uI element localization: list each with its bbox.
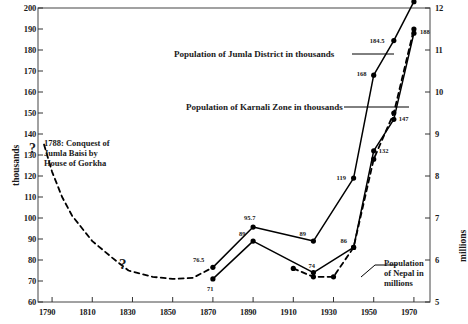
conquest-note-line-2: Jumla Baisi by bbox=[44, 148, 110, 158]
data-point bbox=[311, 274, 316, 279]
x-tick-label: 1910 bbox=[280, 307, 296, 317]
y-axis-right-title: millions bbox=[458, 230, 468, 262]
y-tick-label: 160 bbox=[20, 87, 36, 97]
nepal-callout-line-2: of Nepal in bbox=[384, 268, 424, 278]
y-tick-label: 100 bbox=[20, 213, 36, 223]
y-tick-right-label: 6 bbox=[435, 255, 439, 265]
callout-leader-nepal-elbow bbox=[361, 265, 375, 277]
data-point-label: 89 bbox=[239, 230, 246, 237]
x-tick-label: 1850 bbox=[160, 307, 176, 317]
nepal-callout-line-1: Population bbox=[384, 258, 424, 268]
data-point bbox=[391, 38, 396, 43]
y-tick-right-label: 5 bbox=[435, 297, 439, 307]
karnali-zone-callout-label: Population of Karnali Zone in thousands bbox=[186, 102, 343, 113]
uncertainty-question-mark-icon: ? bbox=[119, 256, 127, 273]
x-tick-label: 1890 bbox=[240, 307, 256, 317]
data-point bbox=[250, 239, 255, 244]
y-tick-label: 200 bbox=[20, 3, 36, 13]
data-point-label: 119 bbox=[337, 174, 346, 181]
x-tick-label: 1790 bbox=[39, 307, 55, 317]
data-point bbox=[371, 148, 376, 153]
data-point bbox=[411, 26, 416, 31]
conquest-note-line-3: House of Gorkha bbox=[44, 158, 110, 168]
data-point-label: 168 bbox=[357, 70, 367, 77]
x-tick-label: 1830 bbox=[119, 307, 135, 317]
y-tick-label: 70 bbox=[20, 276, 36, 286]
data-point bbox=[351, 245, 356, 250]
data-point bbox=[250, 224, 255, 229]
y-tick-label: 130 bbox=[20, 150, 36, 160]
y-tick-label: 60 bbox=[20, 297, 36, 307]
data-point-label: 74 bbox=[308, 262, 315, 269]
conquest-note-line-1: 1788: Conquest of bbox=[44, 138, 110, 148]
x-tick-label: 1930 bbox=[321, 307, 337, 317]
data-point-label: 184.5 bbox=[370, 37, 385, 44]
nepal-callout-label: Population of Nepal in millions bbox=[384, 258, 424, 288]
y-tick-label: 90 bbox=[20, 234, 36, 244]
data-point-label: 71 bbox=[207, 285, 214, 292]
x-tick-label: 1870 bbox=[200, 307, 216, 317]
data-point bbox=[291, 266, 296, 271]
y-tick-right-label: 7 bbox=[435, 213, 439, 223]
data-point bbox=[311, 239, 316, 244]
y-tick-label: 190 bbox=[20, 24, 36, 34]
conquest-note: 1788: Conquest of Jumla Baisi by House o… bbox=[44, 138, 110, 168]
data-point bbox=[391, 110, 396, 115]
data-point-label: 188 bbox=[420, 28, 430, 35]
y-tick-label: 110 bbox=[20, 192, 36, 202]
jumla-district-callout-label: Population of Jumla District in thousand… bbox=[174, 49, 334, 60]
data-point bbox=[210, 276, 215, 281]
y-tick-label: 80 bbox=[20, 255, 36, 265]
data-point-label: 89 bbox=[299, 230, 306, 237]
data-point-label: 132 bbox=[379, 147, 389, 154]
x-tick-label: 1950 bbox=[361, 307, 377, 317]
x-tick-label: 1970 bbox=[401, 307, 417, 317]
data-point-label: 147 bbox=[399, 115, 409, 122]
data-point-label: 86 bbox=[341, 237, 348, 244]
data-point bbox=[331, 274, 336, 279]
y-tick-right-label: 10 bbox=[435, 87, 443, 97]
y-tick-label: 150 bbox=[20, 108, 36, 118]
data-point bbox=[371, 73, 376, 78]
y-tick-right-label: 12 bbox=[435, 3, 443, 13]
data-point bbox=[351, 176, 356, 181]
y-tick-right-label: 11 bbox=[435, 45, 443, 55]
y-tick-label: 120 bbox=[20, 171, 36, 181]
data-point-label: 95.7 bbox=[244, 214, 255, 221]
y-tick-label: 180 bbox=[20, 45, 36, 55]
nepal-callout-line-3: millions bbox=[384, 278, 424, 288]
data-point-label: 76.5 bbox=[193, 256, 204, 263]
y-tick-right-label: 8 bbox=[435, 171, 439, 181]
y-tick-right-label: 9 bbox=[435, 129, 439, 139]
y-tick-label: 170 bbox=[20, 66, 36, 76]
x-tick-label: 1810 bbox=[79, 307, 95, 317]
data-point bbox=[371, 157, 376, 162]
y-tick-label: 140 bbox=[20, 129, 36, 139]
